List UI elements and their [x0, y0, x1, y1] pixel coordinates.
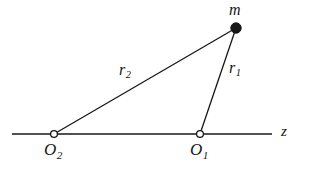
label-m: m [229, 2, 241, 18]
label-o2-base: O [44, 140, 56, 159]
point-marker-m [231, 23, 241, 33]
label-o2: O2 [44, 141, 62, 161]
label-r1-subscript: 1 [235, 67, 241, 78]
segment-r1 [200, 28, 236, 134]
label-o1-base: O [190, 140, 202, 159]
geometry-figure: m r1 r2 O1 O2 z [0, 0, 310, 176]
label-z-axis: z [281, 124, 287, 139]
label-z-text: z [281, 123, 287, 139]
label-r2-subscript: 2 [125, 69, 131, 80]
label-o2-subscript: 2 [56, 149, 62, 161]
segment-r2 [54, 28, 236, 134]
point-marker-o2 [51, 131, 58, 138]
label-o1-subscript: 1 [202, 149, 208, 161]
label-o1: O1 [190, 141, 208, 161]
label-r2: r2 [119, 62, 131, 81]
label-m-text: m [229, 1, 241, 18]
label-r1: r1 [229, 60, 241, 79]
point-marker-o1 [197, 131, 204, 138]
